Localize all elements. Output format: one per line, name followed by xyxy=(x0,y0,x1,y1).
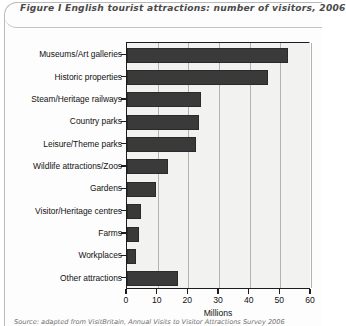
x-axis-tick-label: 10 xyxy=(142,295,172,305)
y-axis-label: Country parks xyxy=(0,116,122,126)
y-axis-label: Gardens xyxy=(0,183,122,193)
x-axis-tick xyxy=(156,289,157,294)
x-axis-tick xyxy=(248,289,249,294)
y-axis-label: Visitor/Heritage centres xyxy=(0,206,122,216)
y-axis-labels: Museums/Art galleriesHistoric properties… xyxy=(0,43,122,289)
x-axis-tick-label: 50 xyxy=(264,295,294,305)
y-axis-label: Leisure/Theme parks xyxy=(0,139,122,149)
bar-row xyxy=(127,177,310,199)
bar-row xyxy=(127,200,310,222)
bar-row xyxy=(127,88,310,110)
plot-area xyxy=(126,43,310,289)
x-axis-tick-label: 60 xyxy=(295,295,325,305)
bar xyxy=(127,48,288,63)
y-axis-label: Farms xyxy=(0,228,122,238)
y-axis-label: Historic properties xyxy=(0,72,122,82)
bar xyxy=(127,182,156,197)
bar-row xyxy=(127,244,310,266)
x-axis-tick-label: 0 xyxy=(111,295,141,305)
bar xyxy=(127,92,201,107)
x-axis-tick-label: 20 xyxy=(172,295,202,305)
bar-row xyxy=(127,110,310,132)
x-axis-tick-label: 40 xyxy=(234,295,264,305)
x-axis-title: Millions xyxy=(126,308,310,318)
bar xyxy=(127,271,178,286)
x-axis-tick xyxy=(309,289,310,294)
y-axis-label: Other attractions xyxy=(0,273,122,283)
y-axis-label: Wildlife attractions/Zoos xyxy=(0,161,122,171)
bar xyxy=(127,115,199,130)
bar xyxy=(127,159,168,174)
y-axis-label: Steam/Heritage railways xyxy=(0,94,122,104)
y-axis-label: Workplaces xyxy=(0,250,122,260)
bar-row xyxy=(127,155,310,177)
figure-title: Figure I English tourist attractions: nu… xyxy=(20,3,316,13)
figure-footnote: Source: adapted from VisitBritain, Annua… xyxy=(14,318,314,326)
x-axis-tick xyxy=(187,289,188,294)
x-axis-tick xyxy=(217,289,218,294)
bar-row xyxy=(127,132,310,154)
gridline-60 xyxy=(311,43,312,288)
bar-row xyxy=(127,267,310,289)
y-axis-label: Museums/Art galleries xyxy=(0,49,122,59)
bar-row xyxy=(127,222,310,244)
bar xyxy=(127,137,196,152)
x-axis-tick-label: 30 xyxy=(203,295,233,305)
bar-row xyxy=(127,65,310,87)
bar-chart: Museums/Art galleriesHistoric properties… xyxy=(0,30,322,326)
x-axis-tick xyxy=(279,289,280,294)
bar-row xyxy=(127,43,310,65)
bar xyxy=(127,70,268,85)
x-axis-tick xyxy=(125,289,126,294)
